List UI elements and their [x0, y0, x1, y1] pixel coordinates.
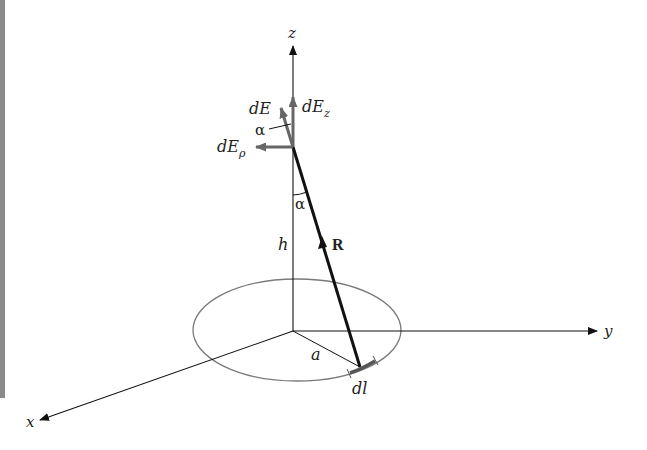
dE-vector	[281, 108, 293, 147]
y-axis-label: y	[603, 322, 613, 340]
z-axis-label: z	[287, 24, 296, 42]
height-label: h	[278, 235, 288, 254]
dl-label: dl	[352, 379, 367, 398]
x-axis-label: x	[26, 413, 35, 431]
dErho-label: dEρ	[217, 137, 246, 160]
diagram-canvas: z y x dE dEz dEρ α α h R a dl	[0, 0, 647, 450]
alpha-top-label: α	[255, 121, 265, 139]
ring-charge-diagram: z y x dE dEz dEρ α α h R a dl	[0, 0, 647, 450]
radius-label: a	[311, 345, 321, 364]
dE-label: dE	[249, 99, 271, 118]
r-vector-line	[293, 147, 360, 367]
x-axis	[40, 331, 293, 420]
alpha-bottom-label: α	[295, 195, 305, 213]
dl-segment	[350, 361, 375, 373]
dEz-label: dEz	[302, 97, 330, 120]
R-label: R	[332, 236, 344, 253]
